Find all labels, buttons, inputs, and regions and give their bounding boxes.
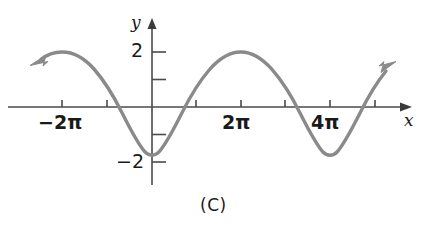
y-tick-label-2: 2: [131, 41, 143, 60]
x-tick-label-neg2pi: −2π: [38, 113, 82, 132]
y-tick-label-neg2: −2: [116, 152, 144, 171]
x-axis-label: x: [404, 112, 414, 129]
figure-caption: (C): [200, 197, 227, 214]
y-axis-arrowhead: [148, 18, 157, 29]
sine-graph-figure: y x 2 −2 −2π 2π 4π (C): [0, 0, 428, 230]
y-axis-label: y: [131, 14, 141, 31]
curve-left-arrowhead: [30, 55, 48, 66]
cosine-curve: [41, 52, 386, 155]
x-tick-label-2pi: 2π: [222, 113, 250, 132]
x-tick-label-4pi: 4π: [311, 113, 339, 132]
